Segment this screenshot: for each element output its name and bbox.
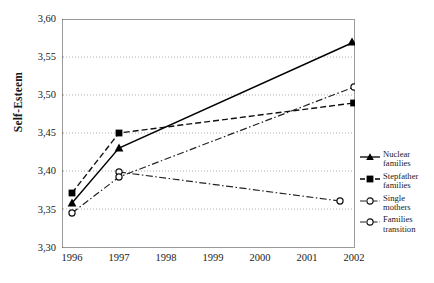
legend-label-line2: families: [383, 180, 411, 190]
data-point: [348, 37, 355, 45]
legend-item-nuclear-families: Nuclearfamilies: [360, 150, 434, 169]
legend-label-line2: transition: [383, 224, 415, 234]
legend-item-families-transition: Familiestransition: [360, 215, 434, 234]
x-axis-tick-labels: 1996 1997 1998 1999 2000 2001 2002: [0, 252, 434, 268]
x-tick-label: 2001: [285, 252, 329, 263]
series-nuclear-families: [68, 37, 355, 206]
y-tick-label: 3,55: [22, 52, 56, 62]
legend-marker-filled-triangle-icon: [360, 151, 380, 163]
data-point: [69, 190, 76, 197]
line-families-transition: [119, 172, 340, 201]
data-point: [69, 210, 75, 216]
legend-label: Stepfatherfamilies: [380, 172, 418, 191]
data-point: [116, 130, 123, 137]
data-point: [350, 100, 355, 107]
legend-label-line2: families: [383, 158, 411, 168]
x-tick-label: 2002: [332, 252, 376, 263]
data-point: [351, 84, 355, 90]
legend-marker-open-circle-icon: [360, 216, 380, 228]
chart-figure: Self-Esteem 3,60 3,55 3,50 3,45 3,40 3,3…: [0, 0, 434, 283]
chart-legend: Nuclearfamilies Stepfatherfamilies Singl…: [360, 150, 434, 237]
series-single-mothers: [69, 84, 355, 216]
data-point: [116, 174, 122, 180]
chart-svg: [62, 19, 355, 248]
legend-marker-open-circle-icon: [360, 195, 380, 207]
y-tick-label: 3,50: [22, 90, 56, 100]
data-point: [337, 198, 343, 204]
legend-marker-filled-square-icon: [360, 173, 380, 185]
x-tick-label: 2000: [238, 252, 282, 263]
y-tick-label: 3,40: [22, 166, 56, 176]
legend-item-stepfather-families: Stepfatherfamilies: [360, 172, 434, 191]
x-tick-label: 1998: [144, 252, 188, 263]
legend-item-single-mothers: Singlemothers: [360, 194, 434, 213]
series-stepfather-families: [69, 100, 355, 197]
x-tick-label: 1996: [50, 252, 94, 263]
y-tick-label: 3,45: [22, 128, 56, 138]
x-tick-label: 1997: [97, 252, 141, 263]
legend-label: Singlemothers: [380, 194, 411, 213]
legend-label: Nuclearfamilies: [380, 150, 411, 169]
plot-area: [62, 19, 355, 248]
plot-frame: [63, 20, 355, 248]
series-families-transition: [116, 169, 343, 204]
y-tick-label: 3,35: [22, 205, 56, 215]
legend-label-line2: mothers: [383, 202, 411, 212]
legend-label: Familiestransition: [380, 215, 415, 234]
x-tick-label: 1999: [191, 252, 235, 263]
data-point: [115, 143, 124, 151]
line-nuclear-families: [72, 42, 354, 203]
y-tick-label: 3,60: [22, 14, 56, 24]
line-stepfather-families: [72, 103, 354, 193]
y-axis-tick-labels: 3,60 3,55 3,50 3,45 3,40 3,35 3,30: [22, 0, 56, 283]
